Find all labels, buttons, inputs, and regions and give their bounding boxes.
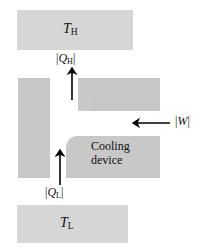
flow-arrows [0,0,202,250]
hot-reservoir-subscript: H [71,27,78,37]
heat-absorbed-label: |QL| [45,186,63,201]
cooling-device-diagram: TH TL |QH| |QL| |W| Coolingdevice [0,0,202,250]
cold-reservoir-subscript: L [68,221,74,231]
hot-reservoir-label: TH [63,21,78,37]
device-name-label: Coolingdevice [91,139,130,167]
heat-rejected-bar-close: | [73,51,75,65]
cold-reservoir-label: TL [60,215,74,231]
cold-reservoir-symbol: T [60,215,68,230]
heat-absorbed-symbol: Q [47,185,56,199]
device-name-line2: device [91,153,122,167]
hot-reservoir-symbol: T [63,21,71,36]
work-input-label: |W| [175,115,190,128]
work-input-bar-close: | [187,114,189,128]
heat-rejected-symbol: Q [58,51,67,65]
work-input-symbol: W [177,114,187,128]
device-name-line1: Cooling [91,139,130,153]
heat-rejected-label: |QH| [56,52,75,67]
heat-absorbed-bar-close: | [61,185,63,199]
